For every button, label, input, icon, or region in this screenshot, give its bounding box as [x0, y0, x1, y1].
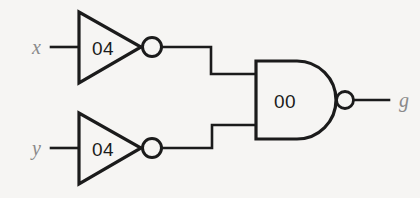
- input-label-x: x: [31, 36, 41, 58]
- inverter-top-bubble-icon: [143, 38, 162, 57]
- inverter-top-label: 04: [92, 38, 114, 59]
- wire-not-x-to-nand: [162, 47, 256, 74]
- inverter-bottom-label: 04: [92, 139, 114, 160]
- input-label-y: y: [30, 137, 41, 160]
- wire-not-y-to-nand: [162, 125, 256, 148]
- nand-gate-label: 00: [274, 91, 296, 112]
- output-label-g: g: [399, 89, 409, 112]
- circuit-diagram-canvas: x 04 y 04 00 g: [0, 0, 420, 198]
- nand-gate-bubble-icon: [337, 92, 354, 109]
- inverter-bottom-bubble-icon: [143, 139, 162, 158]
- circuit-schematic: x 04 y 04 00 g: [0, 0, 420, 198]
